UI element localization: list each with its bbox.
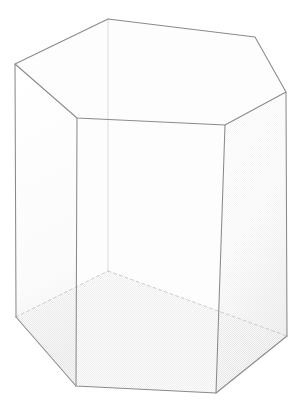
figure-canvas (0, 0, 304, 403)
hexagonal-prism-drawing (0, 0, 304, 403)
